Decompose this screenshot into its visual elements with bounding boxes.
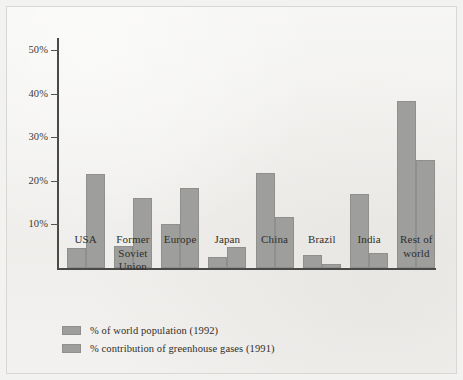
y-axis-tick-label: 40% bbox=[0, 88, 48, 100]
x-axis-label: Rest ofworld bbox=[373, 233, 459, 260]
legend-item: % contribution of greenhouse gases (1991… bbox=[62, 340, 402, 356]
y-axis-tick-text: 20% bbox=[4, 175, 48, 186]
bar bbox=[180, 188, 199, 268]
y-axis-tick-text: 10% bbox=[4, 218, 48, 229]
bar bbox=[208, 257, 227, 268]
legend-label: % of world population (1992) bbox=[90, 325, 218, 336]
bar bbox=[256, 173, 275, 268]
bar-chart: 10%20%30%40%50% USAFormerSovietUnionEuro… bbox=[0, 0, 463, 380]
bar bbox=[67, 248, 86, 268]
bar bbox=[303, 255, 322, 268]
scanned-page: 10%20%30%40%50% USAFormerSovietUnionEuro… bbox=[0, 0, 463, 380]
y-axis-tick-label: 50% bbox=[0, 44, 48, 56]
legend-swatch bbox=[62, 344, 81, 353]
y-axis-tick-label: 20% bbox=[0, 175, 48, 187]
y-axis-tick-label: 30% bbox=[0, 131, 48, 143]
bar bbox=[227, 247, 246, 268]
bar bbox=[322, 264, 341, 268]
legend-item: % of world population (1992) bbox=[62, 322, 402, 338]
legend-label: % contribution of greenhouse gases (1991… bbox=[90, 343, 275, 354]
legend-swatch bbox=[62, 326, 81, 335]
chart-legend: % of world population (1992)% contributi… bbox=[62, 322, 402, 358]
y-axis-tick-label: 10% bbox=[0, 218, 48, 230]
y-axis-tick-text: 40% bbox=[4, 88, 48, 99]
y-axis-tick-text: 30% bbox=[4, 131, 48, 142]
y-axis-tick-text: 50% bbox=[4, 44, 48, 55]
bar bbox=[350, 194, 369, 268]
